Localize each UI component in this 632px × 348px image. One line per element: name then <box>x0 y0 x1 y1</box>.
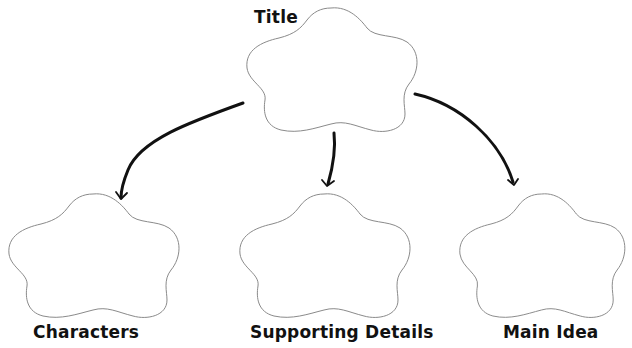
main-idea-flower[interactable] <box>460 194 625 318</box>
characters-flower[interactable] <box>9 194 179 318</box>
arrow-to-main-idea <box>415 94 518 185</box>
arrow-to-characters <box>116 103 243 199</box>
characters-label: Characters <box>33 322 139 342</box>
arrow-to-supporting-details <box>322 133 335 186</box>
supporting-details-flower[interactable] <box>240 194 410 318</box>
supporting-details-label: Supporting Details <box>250 322 434 342</box>
title-label: Title <box>254 7 298 27</box>
main-idea-label: Main Idea <box>503 322 599 342</box>
organizer-canvas <box>0 0 632 348</box>
